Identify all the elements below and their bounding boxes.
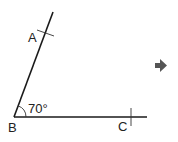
angle-label: 70° — [28, 101, 48, 116]
point-label-a: A — [28, 30, 37, 45]
point-label-c: C — [118, 119, 127, 134]
geometry-diagram: A B C 70° — [0, 0, 178, 142]
angle-arc — [18, 106, 26, 117]
point-label-b: B — [8, 120, 17, 135]
right-arrow-icon — [155, 59, 167, 72]
